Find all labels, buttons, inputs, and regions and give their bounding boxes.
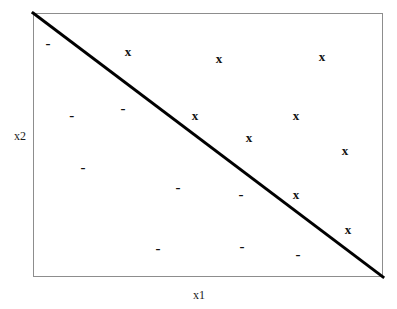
data-point-negative: - <box>295 247 300 262</box>
data-point-positive: x <box>192 108 199 121</box>
data-point-negative: - <box>238 187 243 202</box>
plot-area <box>33 13 383 277</box>
y-axis-label: x2 <box>14 130 26 142</box>
data-point-negative: - <box>69 107 74 122</box>
data-point-negative: - <box>121 101 126 116</box>
data-point-negative: - <box>155 241 160 256</box>
x-axis-label: x1 <box>193 289 205 301</box>
data-point-negative: - <box>46 36 51 51</box>
data-point-positive: x <box>125 45 132 58</box>
data-point-positive: x <box>293 188 300 201</box>
data-point-negative: - <box>239 238 244 253</box>
data-point-positive: x <box>246 131 253 144</box>
data-point-positive: x <box>342 144 349 157</box>
data-point-negative: - <box>175 180 180 195</box>
data-point-negative: - <box>81 159 86 174</box>
scatter-plot-figure: xxxxxxxxx--------- x2 x1 <box>0 0 397 309</box>
data-point-positive: x <box>345 223 352 236</box>
data-point-positive: x <box>293 108 300 121</box>
data-point-positive: x <box>216 51 223 64</box>
data-point-positive: x <box>319 50 326 63</box>
